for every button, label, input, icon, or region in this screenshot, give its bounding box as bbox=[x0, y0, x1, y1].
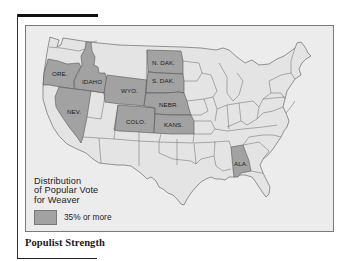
legend-swatch bbox=[34, 210, 57, 225]
map-legend: Distribution of Popular Vote for Weaver … bbox=[34, 177, 112, 225]
label-north-dakota: N. DAK. bbox=[152, 59, 175, 66]
label-idaho: IDAHO bbox=[82, 78, 102, 85]
left-rule bbox=[17, 14, 18, 259]
label-alabama: ALA. bbox=[234, 160, 248, 167]
label-colorado: COLO. bbox=[126, 118, 146, 125]
figure-caption: Populist Strength bbox=[25, 237, 105, 248]
legend-entry: 35% or more bbox=[34, 210, 112, 225]
label-kansas: KANS. bbox=[164, 121, 183, 128]
label-oregon: ORE. bbox=[52, 70, 68, 77]
legend-entry-label: 35% or more bbox=[64, 212, 112, 222]
label-nevada: NEV. bbox=[67, 108, 81, 115]
bottom-rule bbox=[17, 258, 97, 259]
label-nebraska: NEBR. bbox=[159, 101, 179, 108]
top-rule-bar bbox=[18, 14, 98, 17]
legend-title-line: for Weaver bbox=[34, 196, 112, 205]
label-wyoming: WYO. bbox=[121, 87, 138, 94]
legend-title: Distribution of Popular Vote for Weaver bbox=[34, 177, 112, 205]
label-south-dakota: S. DAK. bbox=[152, 77, 175, 84]
